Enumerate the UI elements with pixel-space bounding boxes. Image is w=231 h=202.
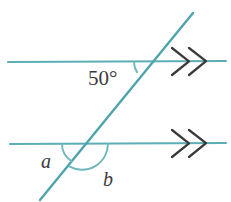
angle-label-b: b [103, 168, 113, 190]
angle-label-a: a [41, 150, 51, 172]
angle-arc-50 [134, 62, 137, 72]
transversal-line [40, 13, 193, 200]
geometry-diagram: 50° a b [0, 0, 231, 202]
angle-arc-a [62, 144, 71, 161]
upper-parallel-line [8, 61, 226, 62]
angle-label-50: 50° [88, 66, 117, 90]
lower-parallel-line [10, 143, 226, 144]
geometry-canvas: 50° a b [0, 0, 231, 202]
